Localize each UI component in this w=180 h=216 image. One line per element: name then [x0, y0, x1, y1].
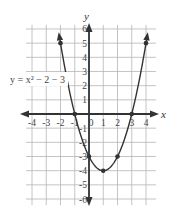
axes	[20, 23, 159, 206]
equation-label-group: y = x² − 2 − 3	[8, 72, 68, 86]
x-axis-left-arrow-icon	[20, 111, 29, 118]
curve-arrow-icon	[143, 32, 149, 40]
y-tick-label: 1	[82, 95, 87, 105]
curve-arrow-icon	[57, 32, 63, 40]
x-tick-label: 2	[115, 118, 120, 128]
x-tick-label: 4	[144, 118, 149, 128]
x-tick-label: -2	[57, 118, 65, 128]
y-tick-label: 4	[82, 53, 87, 63]
equation-label: y = x² − 2 − 3	[10, 74, 65, 85]
x-tick-label: -4	[28, 118, 36, 128]
data-point	[144, 41, 149, 46]
y-tick-label: 6	[82, 24, 87, 34]
data-point	[72, 112, 77, 117]
y-tick-label: -4	[79, 166, 87, 176]
y-tick-label: 2	[82, 81, 87, 91]
y-axis-label: y	[83, 10, 89, 22]
data-point	[115, 154, 120, 159]
y-tick-label: -5	[79, 180, 87, 190]
x-tick-label: 1	[101, 118, 106, 128]
x-axis-right-arrow-icon	[150, 111, 159, 118]
x-axis-label: x	[160, 108, 166, 120]
y-tick-label: -3	[79, 152, 87, 162]
parabola-chart: -4-3-2-101234654321-1-2-3-4-5-6 y = x² −…	[0, 0, 180, 216]
data-point	[129, 112, 134, 117]
y-tick-label: 5	[82, 39, 87, 49]
data-point	[58, 41, 63, 46]
x-tick-label: 0	[89, 118, 94, 128]
data-point	[87, 154, 92, 159]
y-tick-label: 3	[82, 67, 87, 77]
y-tick-label: -6	[79, 195, 87, 205]
grid	[26, 25, 156, 205]
data-point	[101, 168, 106, 173]
x-tick-label: -3	[42, 118, 50, 128]
